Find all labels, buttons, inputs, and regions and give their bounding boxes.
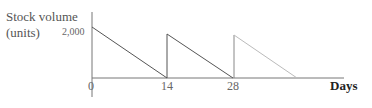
series-cycle-1 <box>92 27 167 78</box>
x-tick-28: 28 <box>227 80 239 92</box>
series-cycle-2 <box>167 34 233 78</box>
chart-plot <box>0 0 372 108</box>
x-axis-label: Days <box>330 79 357 92</box>
x-tick-0: 0 <box>88 80 94 92</box>
x-tick-14: 14 <box>161 80 173 92</box>
series-cycle-3-decline <box>234 35 297 78</box>
